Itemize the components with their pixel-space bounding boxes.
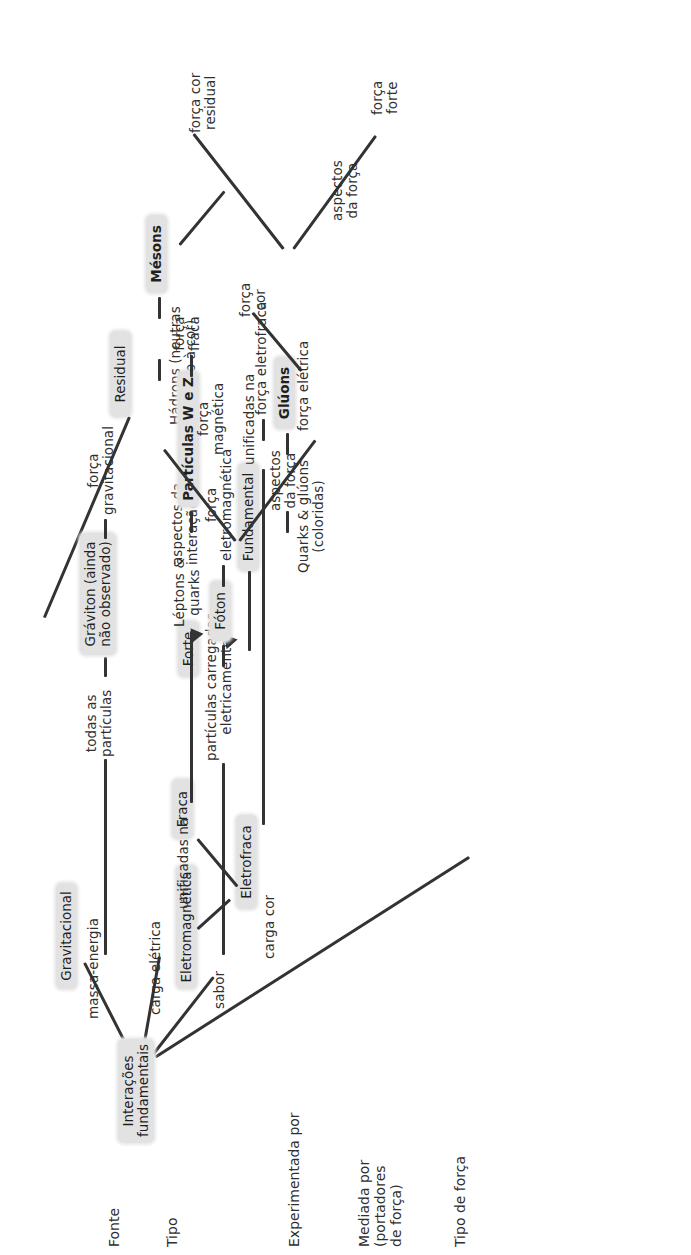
edge-particulas-carregadas-foton xyxy=(222,645,225,667)
node-graviton[interactable]: Gráviton (ainda não observado) xyxy=(80,533,116,655)
edge-label-aspectos-da-forca-em: aspectos da força xyxy=(268,450,298,511)
edge-fraca-leptons-quarks xyxy=(190,631,193,803)
node-mesons[interactable]: Mésons xyxy=(146,215,167,293)
label-todas-as-particulas: todas as partículas xyxy=(84,690,114,757)
edge-label-unificadas-na-tipo: unificadas na xyxy=(176,818,191,909)
node-gluons[interactable]: Glúons xyxy=(274,357,295,429)
edge-eletromagnetica-particulas-carregadas xyxy=(222,763,225,955)
edge-gravitacional-todas-particulas xyxy=(104,759,107,955)
row-label-fonte: Fonte xyxy=(106,1208,122,1247)
edge-unificadas-na-forca-eletrofraca xyxy=(262,419,265,441)
edge-forca-cor-forca-cor-residual xyxy=(192,133,284,250)
edge-fundamental-forte xyxy=(248,571,251,651)
edge-eletrofraca-forca-eletrofraca xyxy=(262,469,265,825)
edge-label-carga-cor: carga cor xyxy=(262,895,277,959)
edge-graviton-forca-gravitacional xyxy=(104,519,107,539)
edge-label-aspectos-da-forca-forte: aspectos da força xyxy=(330,160,360,221)
label-leptons-quarks: Léptons & quarks xyxy=(172,558,202,627)
label-quarks-gluons: Quarks & glúons (coloridas) xyxy=(296,460,326,573)
node-foton[interactable]: Fóton xyxy=(210,581,231,641)
label-forca-eletrica: força elétrica xyxy=(296,341,311,431)
node-residual[interactable]: Residual xyxy=(110,331,131,417)
edge-foton-forca-eletromagnetica xyxy=(222,565,225,587)
label-forca-gravitacional: força gravitacional xyxy=(86,426,116,515)
edge-label-massa-energia: massa-energia xyxy=(86,918,101,1019)
row-label-tipo-de-forca: Tipo de força xyxy=(452,1156,468,1247)
diagram-canvas: Fonte Tipo Experimentada por Mediada por… xyxy=(0,0,691,1255)
label-forca-cor: força cor xyxy=(238,283,268,317)
row-label-tipo: Tipo xyxy=(164,1218,180,1247)
node-gravitacional[interactable]: Gravitacional xyxy=(56,883,77,989)
label-forca-cor-residual: força cor residual xyxy=(188,73,218,133)
edge-mesons-forca-cor xyxy=(178,190,225,246)
concept-map-stage: Fonte Tipo Experimentada por Mediada por… xyxy=(0,0,691,1255)
edge-particulas-wz-forca-fraca xyxy=(190,355,193,377)
edge-todas-particulas-graviton xyxy=(104,657,107,677)
row-label-mediada-por: Mediada por (portadores de força) xyxy=(356,1160,405,1247)
node-interacoes-fundamentais[interactable]: Interações fundamentais xyxy=(118,1039,154,1143)
edge-residual-hadrons xyxy=(158,359,161,381)
edge-hadrons-mesons xyxy=(158,297,161,319)
edge-label-carga-eletrica: carga elétrica xyxy=(148,921,163,1015)
edge-root-forte xyxy=(155,856,470,1058)
edge-fundamental-quarks-gluons xyxy=(286,511,289,533)
node-eletrofraca[interactable]: Eletrofraca xyxy=(236,815,257,909)
label-forca-fraca: força fraca xyxy=(172,316,202,351)
edge-leptons-quarks-particulas-wz xyxy=(190,511,193,533)
label-forca-magnetica: força magnética xyxy=(196,383,226,456)
row-label-experimentada-por: Experimentada por xyxy=(286,1112,302,1247)
edge-label-sabor: sabor xyxy=(212,971,227,1009)
edge-fraca-eletrofraca xyxy=(196,838,238,887)
label-forca-forte: força forte xyxy=(370,81,400,115)
node-forte[interactable]: Forte xyxy=(178,621,199,677)
edge-eletromagnetica-eletrofraca xyxy=(196,898,231,930)
